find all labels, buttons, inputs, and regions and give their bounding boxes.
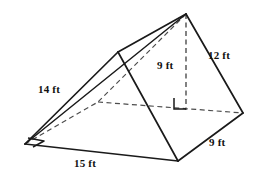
hidden-edges-group: [25, 14, 243, 144]
dimension-label-base-front: 15 ft: [74, 158, 96, 169]
edge-apex-to-base-right: [186, 14, 243, 113]
dimension-label-slant-right: 12 ft: [208, 50, 230, 61]
dimension-label-slant-left: 14 ft: [38, 84, 60, 95]
geometry-figure: 14 ft 9 ft 12 ft 15 ft 9 ft: [0, 0, 254, 171]
edge-ridge-to-apex: [118, 14, 186, 52]
edge-apex-to-base-left: [25, 14, 186, 144]
edge-base-left-to-front: [25, 144, 178, 161]
dimension-label-height: 9 ft: [157, 60, 173, 71]
dimension-label-base-side: 9 ft: [209, 137, 225, 148]
edge-base-left-to-ridge: [25, 52, 118, 144]
hidden-edge-base-back-right: [98, 102, 243, 113]
